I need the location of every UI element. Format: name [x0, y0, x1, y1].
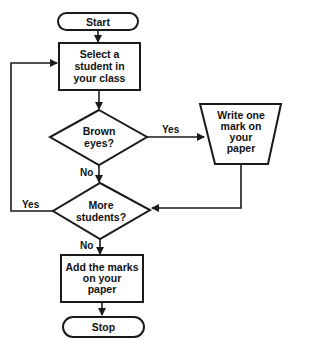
- node-label: paper: [88, 283, 117, 295]
- node-label: Start: [86, 16, 110, 28]
- node-label: student in: [74, 60, 124, 72]
- edge-label-more-yes: Yes: [22, 199, 40, 210]
- node-label: More: [88, 199, 113, 211]
- edge-label-brown-no: No: [80, 167, 93, 178]
- node-start: Start: [58, 13, 138, 30]
- node-select-student: Select a student in your class: [59, 43, 140, 90]
- node-label: paper: [227, 142, 256, 154]
- node-label: Brown: [83, 125, 116, 137]
- node-label: Stop: [92, 321, 115, 333]
- node-stop: Stop: [63, 317, 144, 337]
- edge-label-more-no: No: [80, 240, 93, 251]
- node-label: your class: [74, 72, 126, 84]
- node-brown-eyes-decision: Brown eyes?: [50, 110, 147, 165]
- node-label: Select a: [80, 48, 120, 60]
- node-add-marks: Add the marks on your paper: [61, 255, 143, 302]
- node-label: students?: [76, 211, 126, 223]
- edge-label-brown-yes: Yes: [162, 124, 180, 135]
- flowchart: Start Select a student in your class Bro…: [0, 0, 309, 360]
- node-label: eyes?: [84, 137, 114, 149]
- node-write-mark: Write one mark on your paper: [200, 104, 281, 164]
- arrow-write-to-more: [152, 164, 241, 208]
- node-more-students-decision: More students?: [53, 183, 150, 239]
